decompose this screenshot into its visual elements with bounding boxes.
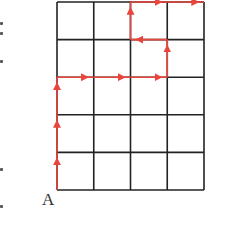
- start-point-label: A: [42, 190, 54, 210]
- grid-diagram: [0, 0, 227, 225]
